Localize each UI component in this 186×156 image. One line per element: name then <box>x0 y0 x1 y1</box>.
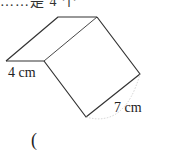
top-diagonal-edge <box>44 17 97 61</box>
answer-open-paren: ( <box>31 131 37 149</box>
edge-label-4cm: 4 cm <box>8 66 36 80</box>
edge-label-7cm: 7 cm <box>114 101 142 115</box>
